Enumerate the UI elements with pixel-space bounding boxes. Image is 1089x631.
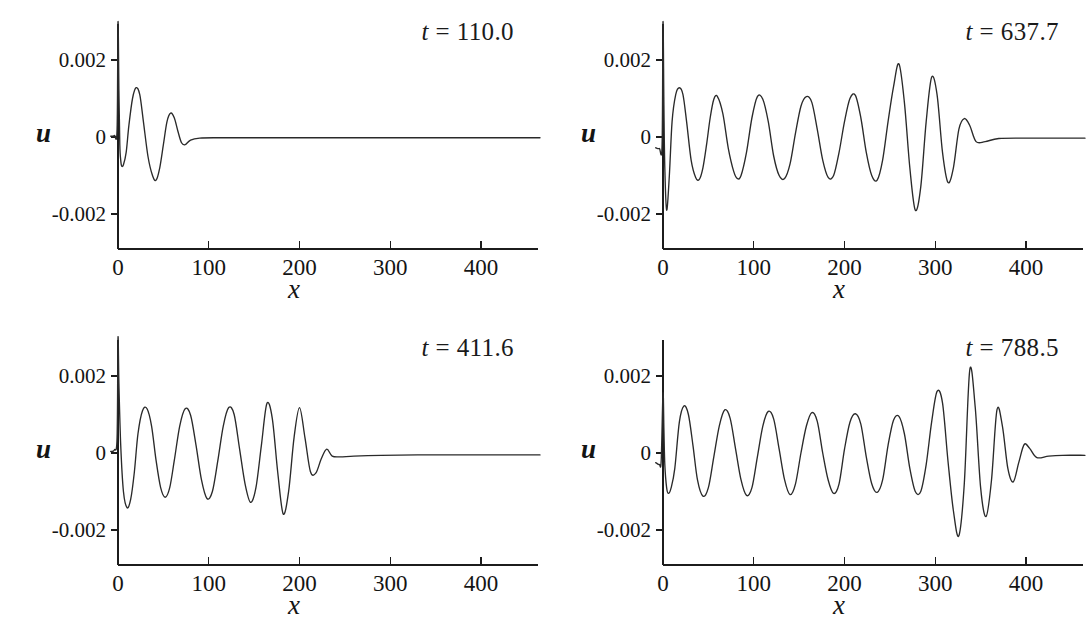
- x-tick-label: 400: [1009, 255, 1044, 280]
- time-value-1: 637.7: [1001, 18, 1059, 45]
- time-annotation-0: t = 110.0: [422, 18, 515, 46]
- time-equals-3: =: [980, 334, 995, 361]
- plot-canvas-0: 0.0020-0.0020100200300400: [0, 0, 544, 315]
- time-symbol-0: t: [422, 18, 429, 45]
- y-tick-label: -0.002: [52, 518, 106, 542]
- x-tick-label: 100: [737, 255, 772, 280]
- x-tick-label: 300: [918, 255, 953, 280]
- y-axis-label-1: u: [581, 120, 596, 147]
- plot-panel-2: 0.0020-0.0020100200300400 u x t = 411.6: [0, 316, 544, 631]
- y-tick-label: 0: [641, 125, 652, 149]
- x-tick-label: 100: [737, 571, 772, 596]
- y-tick-label: 0.002: [604, 48, 651, 72]
- y-tick-label: 0.002: [59, 48, 106, 72]
- y-tick-label: -0.002: [597, 202, 651, 226]
- time-equals-2: =: [436, 334, 451, 361]
- x-tick-label: 300: [373, 255, 408, 280]
- time-annotation-3: t = 788.5: [966, 334, 1059, 362]
- x-axis-label-3: x: [833, 592, 845, 619]
- time-symbol-1: t: [966, 18, 973, 45]
- x-tick-label: 100: [192, 255, 227, 280]
- x-tick-label: 0: [112, 571, 124, 596]
- wave-curve: [656, 367, 1085, 536]
- time-symbol-2: t: [422, 334, 429, 361]
- y-tick-label: -0.002: [597, 518, 651, 542]
- time-equals-0: =: [436, 18, 451, 45]
- y-tick-label: -0.002: [52, 202, 106, 226]
- plot-panel-1: 0.0020-0.0020100200300400 u x t = 637.7: [545, 0, 1089, 315]
- wave-curve: [111, 337, 540, 515]
- x-tick-label: 400: [1009, 571, 1044, 596]
- plot-canvas-1: 0.0020-0.0020100200300400: [545, 0, 1089, 315]
- time-annotation-2: t = 411.6: [422, 334, 515, 362]
- figure-root: 0.0020-0.0020100200300400 u x t = 110.0 …: [0, 0, 1089, 631]
- time-value-3: 788.5: [1001, 334, 1059, 361]
- plot-canvas-2: 0.0020-0.0020100200300400: [0, 316, 544, 631]
- x-tick-label: 100: [192, 571, 227, 596]
- time-value-2: 411.6: [457, 334, 514, 361]
- wave-curve: [656, 22, 1085, 211]
- x-tick-label: 0: [657, 571, 669, 596]
- y-tick-label: 0.002: [604, 364, 651, 388]
- x-tick-label: 0: [112, 255, 124, 280]
- x-tick-label: 300: [918, 571, 953, 596]
- x-tick-label: 0: [657, 255, 669, 280]
- plot-canvas-3: 0.0020-0.0020100200300400: [545, 316, 1089, 631]
- time-symbol-3: t: [966, 334, 973, 361]
- y-tick-label: 0.002: [59, 364, 106, 388]
- time-value-0: 110.0: [457, 18, 514, 45]
- x-tick-label: 300: [373, 571, 408, 596]
- time-equals-1: =: [980, 18, 995, 45]
- x-tick-label: 400: [464, 255, 499, 280]
- y-tick-label: 0: [96, 441, 107, 465]
- plot-panel-3: 0.0020-0.0020100200300400 u x t = 788.5: [545, 316, 1089, 631]
- x-tick-label: 400: [464, 571, 499, 596]
- time-annotation-1: t = 637.7: [966, 18, 1059, 46]
- y-axis-label-0: u: [36, 120, 51, 147]
- y-tick-label: 0: [641, 441, 652, 465]
- y-axis-label-2: u: [36, 436, 51, 463]
- y-axis-label-3: u: [581, 436, 596, 463]
- y-tick-label: 0: [96, 125, 107, 149]
- x-axis-label-2: x: [288, 592, 300, 619]
- plot-panel-0: 0.0020-0.0020100200300400 u x t = 110.0: [0, 0, 544, 315]
- x-axis-label-0: x: [288, 276, 300, 303]
- x-axis-label-1: x: [833, 276, 845, 303]
